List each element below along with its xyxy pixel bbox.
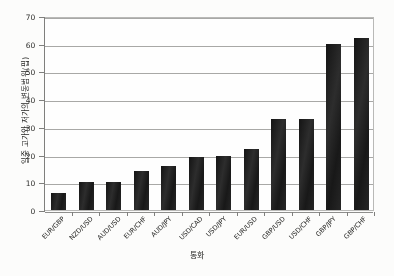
bar [326,44,341,210]
y-tick-mark [39,183,44,184]
bar [161,166,176,210]
bar [189,157,204,210]
x-tick-label: GBP/USD [260,215,286,241]
bar [79,182,94,210]
plot-area [44,17,374,211]
bar [106,182,121,210]
bar-chart-figure: 010203040506070 EUR/GBPNZD/USDAUD/USDEUR… [0,0,394,276]
x-tick-mark [99,212,100,216]
bar [51,193,66,210]
x-tick-mark [292,212,293,216]
x-tick-mark [237,212,238,216]
x-tick-label: USD/CHF [288,215,314,241]
x-tick-label: EUR/CHF [123,215,149,241]
x-tick-label: GBP/JPY [314,215,337,238]
x-tick-label: USD/JPY [204,215,228,239]
x-axis-title: 통화 [0,249,394,260]
x-tick-mark [182,212,183,216]
bar [134,171,149,210]
x-tick-label: AUD/USD [96,215,123,242]
x-tick-label: AUD/JPY [149,215,173,239]
x-tick-mark [72,212,73,216]
bar [244,149,259,210]
x-tick-label: USD/CAD [178,215,205,242]
x-tick-mark [154,212,155,216]
y-tick-mark [39,45,44,46]
x-tick-mark [264,212,265,216]
x-tick-label: NZD/USD [68,215,95,242]
y-axis-line [44,17,45,212]
y-tick-mark [39,17,44,18]
x-tick-mark [319,212,320,216]
x-tick-label: EUR/GBP [40,215,66,241]
x-tick-mark [209,212,210,216]
x-tick-mark [374,212,375,216]
y-tick-mark [39,100,44,101]
y-tick-mark [39,128,44,129]
bar [271,119,286,210]
bar [216,156,231,210]
x-tick-label: EUR/USD [233,215,259,241]
bar [299,119,314,210]
y-tick-mark [39,156,44,157]
y-tick-label: 0 [30,207,35,216]
bar [354,38,369,210]
y-tick-mark [39,72,44,73]
bar-series [45,18,373,210]
y-axis-title: 일중 고가와 저가의 변동범위(핍) [19,31,30,191]
x-tick-mark [127,212,128,216]
y-tick-label: 70 [26,13,35,22]
x-tick-mark [347,212,348,216]
y-tick-mark [39,211,44,212]
x-tick-label: GBP/CHF [343,215,369,241]
